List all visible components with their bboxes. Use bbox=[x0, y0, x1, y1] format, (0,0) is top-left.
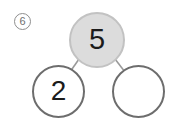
number-bond-whole-value: 5 bbox=[89, 25, 105, 54]
number-bond-problem: 6 5 2 bbox=[0, 0, 174, 123]
number-bond-part-left-value: 2 bbox=[51, 77, 67, 105]
number-bond-part-right-circle[interactable] bbox=[112, 65, 165, 118]
number-bond-part-left-circle[interactable]: 2 bbox=[32, 65, 85, 118]
number-bond-whole-circle[interactable]: 5 bbox=[69, 12, 125, 68]
